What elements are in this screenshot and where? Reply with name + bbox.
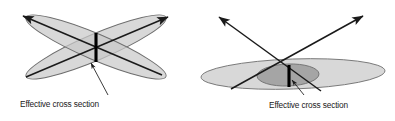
- diagram-panel-crossed-ellipses: Effective cross section: [0, 0, 197, 121]
- caption-label: Effective cross section: [269, 100, 348, 110]
- right-diagram-canvas: Effective cross section: [197, 0, 395, 121]
- diagram-panel-flat-ellipse: Effective cross section: [197, 0, 395, 121]
- ellipse-group-right: [201, 56, 386, 92]
- left-diagram-canvas: Effective cross section: [0, 0, 197, 121]
- caption-leader-line: [91, 63, 108, 95]
- caption-label: Effective cross section: [20, 99, 99, 109]
- figure-effective-cross-section: Effective cross section: [0, 0, 395, 121]
